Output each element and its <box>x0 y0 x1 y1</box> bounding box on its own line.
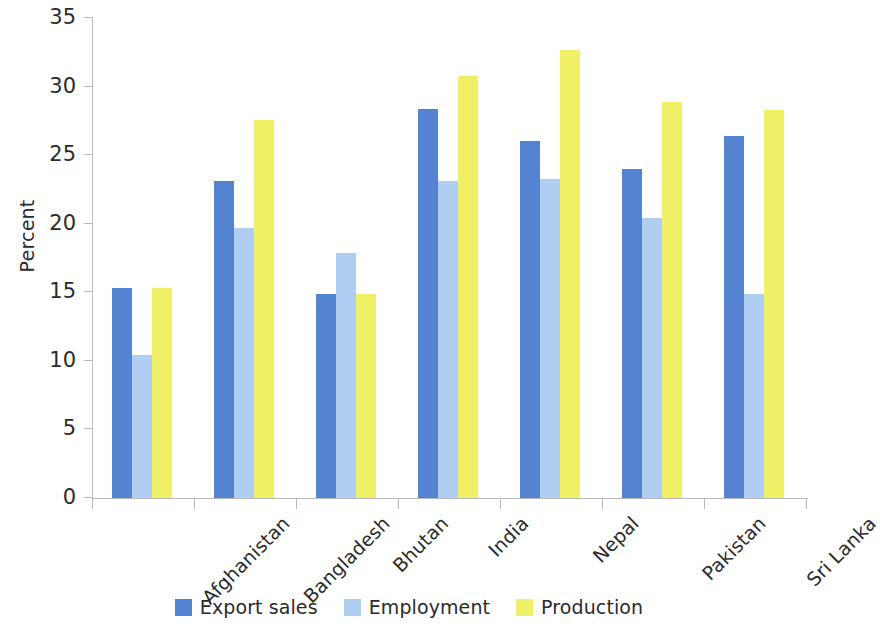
legend-item[interactable]: Employment <box>344 596 490 618</box>
bar <box>336 253 356 499</box>
legend-item[interactable]: Production <box>516 596 643 618</box>
bar <box>112 288 132 498</box>
bar <box>724 136 744 498</box>
legend-label: Export sales <box>200 596 318 618</box>
chart-legend: Export salesEmploymentProduction <box>0 596 818 618</box>
x-axis-line <box>92 498 808 499</box>
x-tick-mark <box>194 499 195 509</box>
bar <box>458 76 478 498</box>
legend-swatch-icon <box>175 599 192 616</box>
bar <box>214 181 234 498</box>
x-tick-mark <box>806 499 807 509</box>
x-tick-label: Afghanistan <box>197 512 293 608</box>
bar <box>662 102 682 498</box>
bar <box>418 109 438 499</box>
x-tick-label: Nepal <box>588 512 643 567</box>
bar <box>744 294 764 498</box>
x-tick-label: Pakistan <box>698 512 770 584</box>
x-tick-mark <box>500 499 501 509</box>
x-tick-label: Bangladesh <box>299 512 394 607</box>
legend-item[interactable]: Export sales <box>175 596 318 618</box>
legend-swatch-icon <box>344 599 361 616</box>
bar <box>132 355 152 498</box>
x-tick-mark <box>704 499 705 509</box>
bar <box>438 181 458 498</box>
legend-label: Production <box>541 596 643 618</box>
bar <box>622 169 642 498</box>
x-tick-mark <box>602 499 603 509</box>
bar <box>254 120 274 499</box>
x-tick-label: Sri Lanka <box>802 512 880 590</box>
bar <box>764 110 784 498</box>
bar <box>520 141 540 498</box>
legend-swatch-icon <box>516 599 533 616</box>
bar <box>316 294 336 498</box>
bar <box>642 218 662 498</box>
legend-label: Employment <box>369 596 490 618</box>
bars-layer <box>0 18 818 498</box>
bar <box>540 179 560 499</box>
x-tick-mark <box>92 499 93 509</box>
x-tick-mark <box>398 499 399 509</box>
bar <box>560 50 580 499</box>
bar <box>234 228 254 498</box>
x-tick-mark <box>296 499 297 509</box>
x-tick-label: Bhutan <box>388 512 452 576</box>
x-tick-label: India <box>484 512 533 561</box>
bar <box>152 288 172 498</box>
bar <box>356 294 376 498</box>
